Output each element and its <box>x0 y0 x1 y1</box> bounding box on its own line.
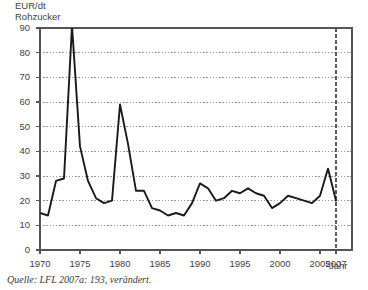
y-tick-label: 50 <box>10 121 30 132</box>
x-tick-label: 2000 <box>263 258 297 269</box>
x-tick-label: 1970 <box>23 258 57 269</box>
x-tick-label: 2007 <box>319 258 353 269</box>
y-tick-label: 40 <box>10 145 30 156</box>
x-tick-label: 1985 <box>143 258 177 269</box>
y-tick-label: 70 <box>10 71 30 82</box>
x-tick-label: 1975 <box>63 258 97 269</box>
x-axis-ticks <box>40 250 336 254</box>
grid-lines <box>40 53 352 226</box>
x-tick-label: 1980 <box>103 258 137 269</box>
y-tick-label: 60 <box>10 96 30 107</box>
data-series <box>40 26 336 216</box>
y-tick-label: 90 <box>10 22 30 33</box>
plot-frame <box>40 28 352 250</box>
y-tick-label: 20 <box>10 195 30 206</box>
x-tick-label: 1995 <box>223 258 257 269</box>
chart-plot-area <box>0 0 368 290</box>
y-tick-label: 0 <box>10 244 30 255</box>
y-tick-label: 30 <box>10 170 30 181</box>
y-tick-label: 80 <box>10 47 30 58</box>
y-tick-label: 10 <box>10 219 30 230</box>
x-tick-label: 1990 <box>183 258 217 269</box>
source-note: Quelle: LFL 2007a: 193, verändert. <box>7 274 151 285</box>
chart-figure: EUR/dt Rohzucker Jahr Quelle: LFL 2007a:… <box>0 0 368 290</box>
